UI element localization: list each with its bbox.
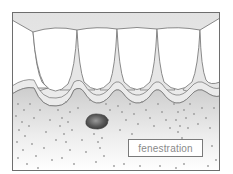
tooth-4 — [117, 28, 157, 90]
fenestration-label: fenestration — [128, 139, 203, 157]
fenestration-label-text: fenestration — [138, 143, 193, 154]
tooth-3 — [77, 28, 117, 90]
fenestration-defect — [86, 114, 108, 129]
